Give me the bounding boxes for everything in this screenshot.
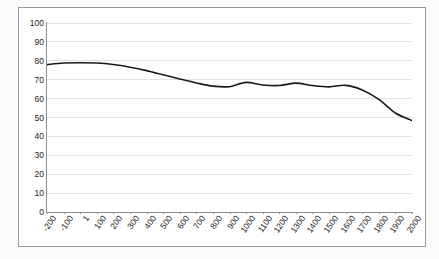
data-line <box>47 63 412 121</box>
data-series-group <box>47 63 412 121</box>
x-axis-tick-label: 1500 <box>322 214 340 234</box>
x-axis-tick-label: 1900 <box>389 214 407 234</box>
x-axis-tick-mark <box>279 212 280 214</box>
x-axis-tick-mark <box>329 212 330 214</box>
x-axis-tick-mark <box>130 212 131 214</box>
x-axis-tick-label: 500 <box>159 214 174 230</box>
x-axis-tick-label: 100 <box>93 214 108 230</box>
x-axis-tick-label: 1300 <box>289 214 307 234</box>
x-axis-tick-mark <box>246 212 247 214</box>
y-axis-tick-label: 40 <box>18 132 44 141</box>
x-axis-tick-mark <box>180 212 181 214</box>
gridlines <box>47 23 412 212</box>
y-axis-tick-label: 20 <box>18 170 44 179</box>
x-axis-tick-label: 1000 <box>239 214 257 234</box>
x-axis-tick-label: 1700 <box>355 214 373 234</box>
x-axis-tick-label: 800 <box>209 214 224 230</box>
x-axis-tick-mark <box>312 212 313 214</box>
line-chart-svg <box>47 23 412 212</box>
x-axis: -200-10011002003004005006007008009001000… <box>47 214 412 250</box>
x-axis-tick-label: 300 <box>126 214 141 230</box>
y-axis-tick-label: 0 <box>18 208 44 217</box>
x-axis-tick-mark <box>80 212 81 214</box>
x-axis-tick-label: 1100 <box>256 214 273 234</box>
x-axis-tick-label: 1200 <box>272 214 290 234</box>
x-axis-tick-mark <box>163 212 164 214</box>
y-axis-tick-label: 90 <box>18 38 44 47</box>
x-axis-tick-label: 1 <box>81 214 91 223</box>
x-axis-tick-label: 400 <box>142 214 157 230</box>
x-axis-tick-label: 1400 <box>306 214 324 234</box>
x-axis-tick-mark <box>230 212 231 214</box>
x-axis-tick-mark <box>395 212 396 214</box>
x-axis-tick-mark <box>147 212 148 214</box>
x-axis-tick-label: 700 <box>192 214 207 230</box>
x-axis-tick-mark <box>196 212 197 214</box>
x-axis-tick-mark <box>263 212 264 214</box>
x-axis-tick-mark <box>97 212 98 214</box>
x-axis-tick-mark <box>379 212 380 214</box>
x-axis-tick-mark <box>47 212 48 214</box>
y-axis: 0102030405060708090100 <box>18 23 44 212</box>
chart-container: 0102030405060708090100 -200-100110020030… <box>0 0 439 259</box>
x-axis-tick-label: -100 <box>58 214 75 233</box>
x-axis-tick-mark <box>213 212 214 214</box>
x-axis-tick-mark <box>113 212 114 214</box>
y-axis-tick-label: 10 <box>18 189 44 198</box>
y-axis-tick-label: 100 <box>18 19 44 28</box>
x-axis-tick-label: 1800 <box>372 214 390 234</box>
x-axis-tick-mark <box>64 212 65 214</box>
x-axis-tick-mark <box>296 212 297 214</box>
y-axis-tick-label: 50 <box>18 113 44 122</box>
y-axis-tick-label: 30 <box>18 151 44 160</box>
x-axis-tick-mark <box>412 212 413 214</box>
plot-area <box>47 23 412 212</box>
y-axis-tick-label: 60 <box>18 94 44 103</box>
y-axis-tick-label: 70 <box>18 75 44 84</box>
x-axis-tick-label: 200 <box>109 214 124 230</box>
y-axis-tick-label: 80 <box>18 57 44 66</box>
x-axis-tick-label: 600 <box>176 214 191 230</box>
x-axis-tick-label: 1600 <box>339 214 357 234</box>
x-axis-tick-mark <box>362 212 363 214</box>
x-axis-tick-mark <box>346 212 347 214</box>
